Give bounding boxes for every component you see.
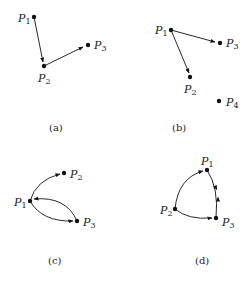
node-p2 xyxy=(173,207,177,211)
label-p1: P1 xyxy=(17,12,31,26)
node-p2 xyxy=(188,75,192,79)
label-p3: P3 xyxy=(93,39,107,53)
node-p3 xyxy=(86,43,90,47)
node-p3 xyxy=(214,216,218,220)
edge-p1-p3-arc xyxy=(207,170,217,218)
edge-p1-p2 xyxy=(171,30,189,73)
node-p2 xyxy=(42,64,46,68)
caption-b: (b) xyxy=(172,122,186,133)
panel-a: P1 P2 P3 (a) xyxy=(17,12,107,133)
label-p4: P4 xyxy=(225,96,239,110)
directed-graphs-figure: P1 P2 P3 (a) P1 P2 P3 P4 (b) P1 P2 P3 (c… xyxy=(0,0,246,281)
caption-c: (c) xyxy=(48,255,62,266)
label-p2: P2 xyxy=(159,204,173,218)
node-p3 xyxy=(218,41,222,45)
label-p3: P3 xyxy=(221,216,235,230)
edge-p2-p1 xyxy=(175,171,203,209)
edge-p3-p1-upper xyxy=(34,199,77,221)
label-p2: P2 xyxy=(183,83,197,97)
edge-p1-p2 xyxy=(30,174,60,201)
node-p1 xyxy=(169,28,173,32)
caption-d: (d) xyxy=(195,255,209,266)
label-p1: P1 xyxy=(200,155,214,169)
node-p1 xyxy=(32,15,36,19)
edge-p1-p3 xyxy=(171,30,215,42)
label-p2: P2 xyxy=(37,72,51,86)
node-p1 xyxy=(28,199,32,203)
edge-p1-p3-lower xyxy=(30,201,73,221)
label-p1: P1 xyxy=(13,196,27,210)
caption-a: (a) xyxy=(49,122,63,133)
arrow-p1-p3 xyxy=(215,186,216,188)
panel-c: P1 P2 P3 (c) xyxy=(13,168,96,266)
node-p3 xyxy=(75,219,79,223)
panel-b: P1 P2 P3 P4 (b) xyxy=(154,24,239,133)
panel-d: P1 P2 P3 (d) xyxy=(159,155,235,266)
label-p2: P2 xyxy=(69,168,83,182)
label-p3: P3 xyxy=(225,37,239,51)
edge-p1-p2 xyxy=(34,17,43,62)
edge-p2-p3 xyxy=(44,47,83,66)
node-p4 xyxy=(217,99,221,103)
label-p1: P1 xyxy=(154,24,168,38)
label-p3: P3 xyxy=(82,216,96,230)
node-p2 xyxy=(62,171,66,175)
edge-p2-p3 xyxy=(175,209,212,218)
